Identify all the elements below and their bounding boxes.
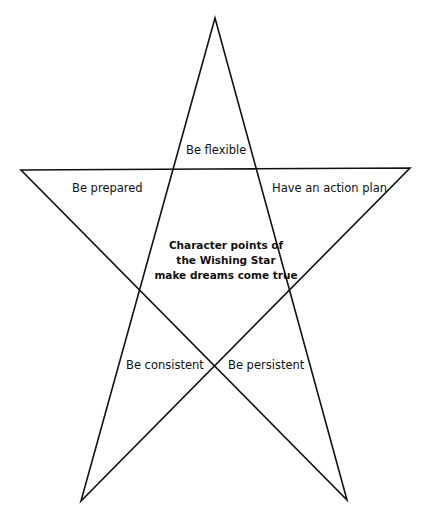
center-caption-line-3: make dreams come true [146,268,306,283]
center-caption: Character points of the Wishing Star mak… [146,238,306,283]
wishing-star-diagram: Be flexible Be prepared Have an action p… [0,0,426,513]
point-label-bottom-right: Be persistent [228,360,304,372]
center-caption-line-1: Character points of [146,238,306,253]
center-caption-line-2: the Wishing Star [146,253,306,268]
point-label-top: Be flexible [186,145,246,157]
point-label-right: Have an action plan [272,183,387,195]
point-label-bottom-left: Be consistent [126,360,204,372]
point-label-left: Be prepared [72,183,143,195]
